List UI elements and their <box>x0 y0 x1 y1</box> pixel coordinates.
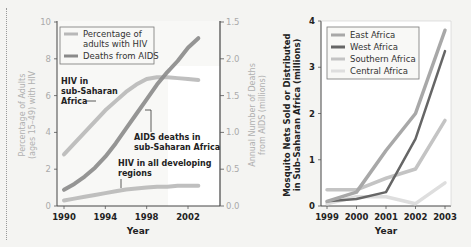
left-x-tick-label: 1994 <box>93 212 117 222</box>
left-y-tick-label: 6 <box>46 91 51 101</box>
legend-label-west-africa: West Africa <box>350 42 398 52</box>
legend-label-deaths: Deaths from AIDS <box>83 51 159 61</box>
left-x-tick-label: 2002 <box>176 212 200 222</box>
hiv-aids-chart: 0246810 0.00.51.01.52.01.5 1990199419982… <box>18 17 267 236</box>
left-x-tick-label: 1998 <box>135 212 159 222</box>
right-y-tick-label: 0.5 <box>226 164 240 174</box>
right-y-axis-title-line2: from AIDS (millions) <box>258 75 267 155</box>
nets-x-tick-label: 2002 <box>404 212 428 222</box>
mosquito-nets-chart: 01234 19992000200120022003 East AfricaWe… <box>282 16 457 236</box>
annotation-hiv-developing-line2: regions <box>118 169 152 178</box>
nets-y-tick-label: 1 <box>309 155 315 165</box>
legend-label-southern-africa: Southern Africa <box>350 54 416 64</box>
left-y-tick-label: 10 <box>40 17 51 27</box>
right-y-tick-label: 1.5 <box>226 17 240 27</box>
legend-label-percentage-2: adults with HIV <box>83 39 147 49</box>
annotation-hiv-ssa-line3: Africa <box>61 97 88 106</box>
nets-x-tick-label: 1999 <box>315 212 339 222</box>
nets-y-axis-title-line2: in Sub-Saharan Africa (millions) <box>292 39 302 192</box>
left-y-tick-label: 4 <box>46 127 51 137</box>
nets-y-axis-title-line1: Mosquito Nets Sold or Distributed <box>282 33 292 196</box>
right-y-tick-label: 2.0 <box>226 54 240 64</box>
annotation-aids-deaths-line1: AIDS deaths in <box>134 133 201 142</box>
left-y-tick-label: 8 <box>46 54 51 64</box>
nets-y-tick-label: 2 <box>309 109 315 119</box>
nets-x-tick-label: 2000 <box>345 212 369 222</box>
annotation-hiv-developing-line1: HIV in all developing <box>118 159 212 168</box>
nets-y-tick-label: 0 <box>309 201 315 211</box>
charts-figure: 0246810 0.00.51.01.52.01.5 1990199419982… <box>0 0 471 247</box>
left-legend: Percentage of adults with HIV Deaths fro… <box>60 27 159 64</box>
legend-label-central-africa: Central Africa <box>350 66 408 76</box>
annotation-hiv-ssa-line1: HIV in <box>61 77 88 86</box>
left-y-tick-label: 0 <box>46 201 51 211</box>
nets-x-tick-label: 2003 <box>433 212 457 222</box>
right-y-tick-label: 0.0 <box>226 201 240 211</box>
legend-label-percentage-1: Percentage of <box>83 29 143 39</box>
left-x-tick-label: 1990 <box>52 212 76 222</box>
left-y-axis-title-line2: (ages 15–49) with HIV <box>28 70 37 159</box>
left-x-axis-title: Year <box>126 226 150 236</box>
right-y-tick-label: 1.0 <box>226 127 240 137</box>
left-y-axis-title-line1: Percentage of Adults <box>18 74 27 157</box>
nets-legend: East AfricaWest AfricaSouthern AfricaCen… <box>327 27 419 79</box>
right-y-tick-label: 1.5 <box>226 91 240 101</box>
annotation-hiv-ssa-line2: sub-Saharan <box>61 87 118 96</box>
nets-x-tick-label: 2001 <box>374 212 398 222</box>
nets-y-tick-label: 4 <box>309 16 315 26</box>
right-y-axis-title-line1: Annual Number of Deaths <box>248 63 257 167</box>
left-y-tick-label: 2 <box>46 164 51 174</box>
annotation-aids-deaths-line2: sub-Saharan Africa <box>134 143 220 152</box>
nets-x-axis-title: Year <box>374 226 398 236</box>
nets-y-tick-label: 3 <box>309 62 315 72</box>
legend-label-east-africa: East Africa <box>350 30 395 40</box>
